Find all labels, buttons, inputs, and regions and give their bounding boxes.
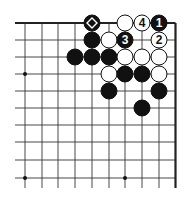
move-number-label: 4 — [139, 16, 146, 30]
white-stone — [151, 66, 167, 82]
black-stone — [101, 83, 117, 99]
black-stone — [134, 66, 150, 82]
move-number-label: 1 — [156, 16, 163, 30]
stone-icon — [101, 66, 117, 82]
black-stone — [84, 49, 100, 65]
stone-icon — [134, 66, 150, 82]
stone-icon — [67, 49, 83, 65]
stone-icon — [101, 32, 117, 48]
star-point-icon — [23, 176, 27, 180]
stone-icon — [151, 83, 167, 99]
black-stone — [67, 49, 83, 65]
stone-icon — [117, 66, 133, 82]
white-stone — [134, 49, 150, 65]
star-point-icon — [23, 72, 27, 76]
black-stone — [151, 83, 167, 99]
white-stone — [101, 66, 117, 82]
star-point-icon — [123, 176, 127, 180]
white-stone — [151, 49, 167, 65]
move-number-label: 2 — [156, 33, 163, 47]
stone-icon — [151, 49, 167, 65]
stones: 4132 — [67, 15, 167, 116]
black-stone — [117, 66, 133, 82]
stone-icon — [151, 66, 167, 82]
stone-icon — [117, 49, 133, 65]
stone-icon — [84, 49, 100, 65]
stone-icon — [134, 100, 150, 116]
move-number-label: 3 — [122, 33, 129, 47]
stone-icon — [84, 32, 100, 48]
white-stone — [117, 15, 133, 31]
black-stone — [101, 49, 117, 65]
stone-icon — [117, 15, 133, 31]
go-board-diagram: 4132 — [0, 0, 186, 201]
black-stone — [84, 32, 100, 48]
black-stone-move-3: 3 — [117, 32, 133, 48]
stone-icon — [101, 83, 117, 99]
white-stone-move-4: 4 — [134, 15, 150, 31]
white-stone-move-2: 2 — [151, 32, 167, 48]
black-stone — [134, 100, 150, 116]
black-stone-move-1: 1 — [151, 15, 167, 31]
stone-icon — [101, 49, 117, 65]
white-stone — [117, 49, 133, 65]
stone-icon — [134, 49, 150, 65]
white-stone — [101, 32, 117, 48]
black-stone — [84, 15, 100, 31]
